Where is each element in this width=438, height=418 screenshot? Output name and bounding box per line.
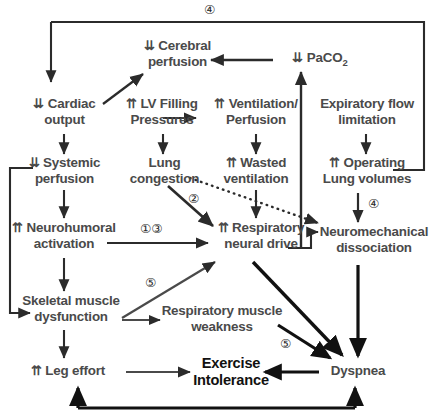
- edge-bottom-feedback-loop: [78, 388, 355, 408]
- node-lv-filling-pressures[interactable]: ⇈ LV Filling Pressures: [112, 96, 212, 127]
- node-wasted-ventilation-line1: ⇈ Wasted: [206, 155, 306, 171]
- node-exercise-intolerance-line2: Intolerance: [182, 372, 280, 389]
- marker-dyspnea-5: ⑤: [280, 338, 291, 351]
- node-exercise-intolerance-line1: Exercise: [182, 355, 280, 372]
- node-cerebral-perfusion-line1: ⇊ Cerebral: [130, 38, 225, 54]
- node-skeletal-muscle-dysfunction[interactable]: Skeletal muscle dysfunction: [16, 293, 126, 324]
- marker-operating-4: ④: [368, 198, 379, 211]
- node-lung-congestion-line1: Lung: [118, 155, 211, 171]
- node-lv-filling-pressures-line2: Pressures: [112, 112, 212, 128]
- node-leg-effort[interactable]: ⇈ Leg effort: [18, 363, 118, 379]
- node-paco2-line1: ⇊ PaCO: [292, 50, 342, 65]
- marker-neurohumoral-1-3: ①③: [140, 223, 162, 236]
- node-ventilation-perfusion-line2: Perfusion: [204, 112, 308, 128]
- node-expiratory-flow-limitation-line2: limitation: [311, 112, 423, 128]
- marker-lung-congestion-2: ②: [188, 193, 199, 206]
- node-paco2[interactable]: ⇊ PaCO2: [278, 50, 362, 70]
- node-leg-effort-line1: ⇈ Leg effort: [18, 363, 118, 379]
- node-expiratory-flow-limitation[interactable]: Expiratory flow limitation: [311, 96, 423, 127]
- node-operating-lung-volumes-line1: ⇈ Operating: [311, 155, 423, 171]
- node-neuromechanical-dissociation-line1: Neuromechanical: [314, 224, 434, 240]
- node-neurohumoral-activation-line1: ⇈ Neurohumoral: [5, 220, 123, 236]
- diagram-canvas: ⇊ Cerebral perfusion ⇊ PaCO2 ⇊ Cardiac o…: [0, 0, 438, 418]
- node-operating-lung-volumes-line2: Lung volumes: [311, 171, 423, 187]
- node-respiratory-muscle-weakness-line2: weakness: [157, 319, 287, 335]
- node-dyspnea-line1: Dyspnea: [320, 363, 396, 379]
- node-exercise-intolerance[interactable]: Exercise Intolerance: [182, 355, 280, 389]
- node-respiratory-neural-drive-line2: neural drive: [209, 236, 313, 252]
- node-respiratory-neural-drive-line1: ⇈ Respiratory: [209, 220, 313, 236]
- node-wasted-ventilation[interactable]: ⇈ Wasted ventilation: [206, 155, 306, 186]
- node-ventilation-perfusion-line1: ⇈ Ventilation/: [204, 96, 308, 112]
- node-neuromechanical-dissociation-line2: dissociation: [314, 240, 434, 256]
- node-dyspnea[interactable]: Dyspnea: [320, 363, 396, 379]
- node-respiratory-muscle-weakness[interactable]: Respiratory muscle weakness: [157, 303, 287, 334]
- node-ventilation-perfusion[interactable]: ⇈ Ventilation/ Perfusion: [204, 96, 308, 127]
- node-skeletal-muscle-dysfunction-line2: dysfunction: [16, 309, 126, 325]
- node-skeletal-muscle-dysfunction-line1: Skeletal muscle: [16, 293, 126, 309]
- node-cardiac-output-line2: output: [17, 112, 112, 128]
- node-cardiac-output[interactable]: ⇊ Cardiac output: [17, 96, 112, 127]
- node-neurohumoral-activation[interactable]: ⇈ Neurohumoral activation: [5, 220, 123, 251]
- node-expiratory-flow-limitation-line1: Expiratory flow: [311, 96, 423, 112]
- node-respiratory-muscle-weakness-line1: Respiratory muscle: [157, 303, 287, 319]
- node-operating-lung-volumes[interactable]: ⇈ Operating Lung volumes: [311, 155, 423, 186]
- node-systemic-perfusion[interactable]: ⇊ Systemic perfusion: [16, 155, 113, 186]
- marker-skeletal-5: ⑤: [145, 277, 156, 290]
- node-lung-congestion-line2: congestion: [118, 171, 211, 187]
- node-lv-filling-pressures-line1: ⇈ LV Filling: [112, 96, 212, 112]
- node-lung-congestion[interactable]: Lung congestion: [118, 155, 211, 186]
- node-systemic-perfusion-line1: ⇊ Systemic: [16, 155, 113, 171]
- node-cardiac-output-line1: ⇊ Cardiac: [17, 96, 112, 112]
- node-neuromechanical-dissociation[interactable]: Neuromechanical dissociation: [314, 224, 434, 255]
- node-neurohumoral-activation-line2: activation: [5, 236, 123, 252]
- node-wasted-ventilation-line2: ventilation: [206, 171, 306, 187]
- node-systemic-perfusion-line2: perfusion: [16, 171, 113, 187]
- node-paco2-subscript: 2: [342, 57, 347, 68]
- marker-top-4: ④: [204, 4, 215, 17]
- node-cerebral-perfusion-line2: perfusion: [130, 54, 225, 70]
- node-cerebral-perfusion[interactable]: ⇊ Cerebral perfusion: [130, 38, 225, 69]
- node-respiratory-neural-drive[interactable]: ⇈ Respiratory neural drive: [209, 220, 313, 251]
